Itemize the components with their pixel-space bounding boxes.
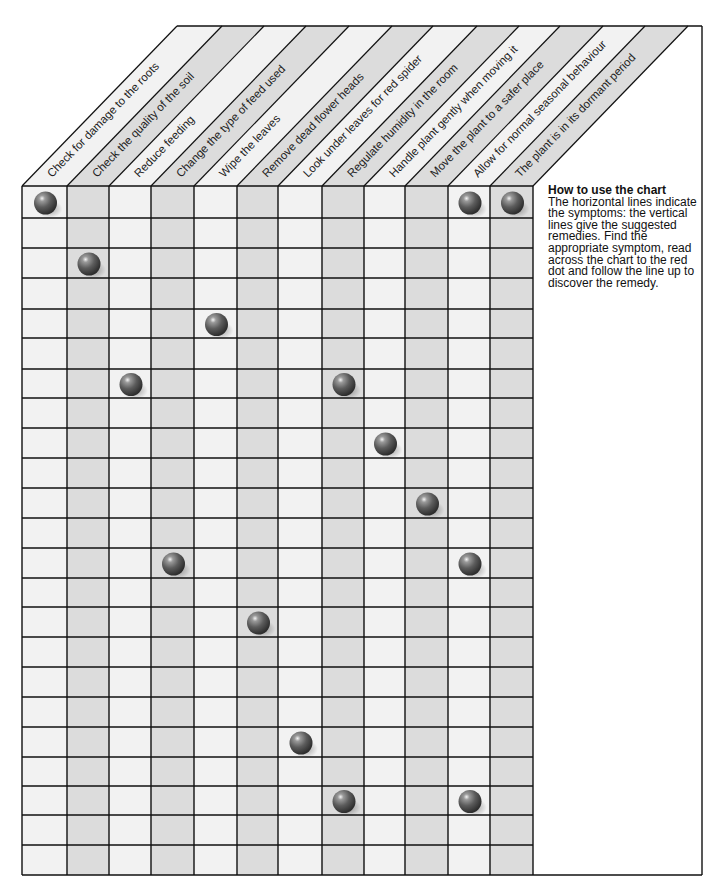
remedy-column (237, 186, 278, 875)
remedy-column (322, 186, 364, 875)
remedy-column (151, 186, 194, 875)
how-to-panel: How to use the chart The horizontal line… (548, 185, 698, 289)
remedy-column (67, 186, 109, 875)
remedy-column (22, 186, 67, 875)
remedy-column (194, 186, 237, 875)
remedy-column (278, 186, 322, 875)
how-to-body: The horizontal lines indicate the sympto… (548, 197, 698, 290)
remedy-column (109, 186, 151, 875)
remedy-chart: Check for damage to the rootsCheck the q… (0, 0, 724, 895)
remedy-column (448, 186, 490, 875)
remedy-column (490, 186, 533, 875)
remedy-column (364, 186, 405, 875)
remedy-column (405, 186, 448, 875)
